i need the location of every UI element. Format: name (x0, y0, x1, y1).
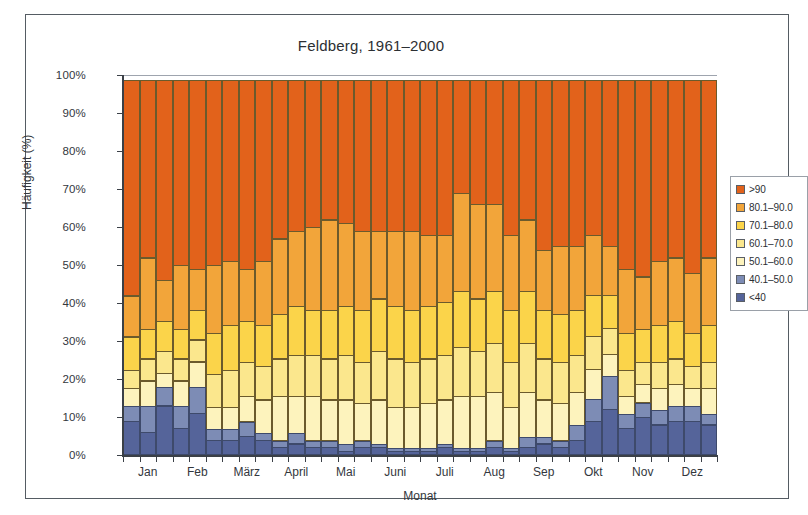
bar-segment (321, 359, 338, 401)
legend-swatch-icon (736, 185, 745, 194)
x-tick-mark (354, 456, 355, 462)
bar-segment (156, 373, 173, 388)
bar-segment (569, 310, 586, 356)
bar-Jan-3[interactable] (156, 75, 173, 455)
bar-Dez-3[interactable] (701, 75, 718, 455)
legend-item[interactable]: >90 (736, 184, 803, 195)
x-tick-mark (420, 456, 421, 462)
legend-swatch-icon (736, 293, 745, 302)
bar-segment (404, 407, 421, 449)
bar-segment (387, 231, 404, 307)
bar-Jan-1[interactable] (123, 75, 140, 455)
bar-April-3[interactable] (305, 75, 322, 455)
bar-segment (140, 381, 157, 408)
bar-segment (602, 376, 619, 410)
x-tick-mark (288, 456, 289, 462)
bar-segment (420, 403, 437, 449)
bar-segment (239, 396, 256, 423)
x-axis-label: Monat (123, 489, 717, 503)
bar-Feb-1[interactable] (173, 75, 190, 455)
bar-segment (486, 291, 503, 344)
bar-segment (420, 235, 437, 307)
x-tick-label-mai: Mai (336, 465, 355, 479)
bar-segment (437, 400, 454, 446)
bar-Feb-2[interactable] (189, 75, 206, 455)
bar-Juni-1[interactable] (371, 75, 388, 455)
bar-segment (602, 246, 619, 295)
bar-Juli-1[interactable] (420, 75, 437, 455)
bar-segment (519, 220, 536, 292)
bar-segment (651, 410, 668, 425)
bar-segment (569, 246, 586, 311)
bar-Mai-1[interactable] (321, 75, 338, 455)
bar-segment (354, 231, 371, 311)
bar-Nov-3[interactable] (651, 75, 668, 455)
bar-Aug-3[interactable] (503, 75, 520, 455)
bar-Mai-2[interactable] (338, 75, 355, 455)
bar-segment (552, 246, 569, 314)
legend-item[interactable]: <40 (736, 292, 803, 303)
bar-Juli-3[interactable] (453, 75, 470, 455)
bar-März-3[interactable] (255, 75, 272, 455)
bar-segment (387, 407, 404, 449)
bar-Nov-1[interactable] (618, 75, 635, 455)
page-title: Feldberg, 1961–2000 (26, 37, 716, 54)
bar-segment (701, 425, 718, 455)
bar-segment (222, 80, 239, 262)
x-tick-mark (123, 456, 124, 462)
bar-segment (651, 362, 668, 389)
x-tick-mark (486, 456, 487, 462)
bar-Okt-2[interactable] (585, 75, 602, 455)
bar-Dez-2[interactable] (684, 75, 701, 455)
bar-segment (123, 421, 140, 455)
bar-segment (305, 447, 322, 455)
bar-Dez-1[interactable] (668, 75, 685, 455)
bar-Sep-3[interactable] (552, 75, 569, 455)
bar-Aug-1[interactable] (470, 75, 487, 455)
bar-segment (701, 80, 718, 259)
bar-segment (239, 269, 256, 322)
bar-segment (536, 310, 553, 359)
bar-Sep-2[interactable] (536, 75, 553, 455)
bar-segment (420, 306, 437, 359)
bar-segment (156, 351, 173, 374)
bar-April-1[interactable] (272, 75, 289, 455)
legend-item[interactable]: 40.1–50.0 (736, 274, 803, 285)
bar-segment (668, 421, 685, 455)
x-tick-mark (635, 456, 636, 462)
bar-segment (123, 337, 140, 371)
x-tick-mark (371, 456, 372, 462)
bar-segment (503, 362, 520, 408)
bar-segment (668, 258, 685, 323)
bar-Juni-2[interactable] (387, 75, 404, 455)
bar-Aug-2[interactable] (486, 75, 503, 455)
legend-item[interactable]: 50.1–60.0 (736, 256, 803, 267)
legend-item[interactable]: 70.1–80.0 (736, 220, 803, 231)
bar-Jan-2[interactable] (140, 75, 157, 455)
bar-Sep-1[interactable] (519, 75, 536, 455)
legend-item[interactable]: 60.1–70.0 (736, 238, 803, 249)
bar-segment (123, 296, 140, 338)
bar-segment (206, 265, 223, 333)
x-tick-mark (321, 456, 322, 462)
x-tick-mark (206, 456, 207, 462)
bar-segment (635, 80, 652, 278)
bar-März-1[interactable] (222, 75, 239, 455)
bar-Feb-3[interactable] (206, 75, 223, 455)
bar-März-2[interactable] (239, 75, 256, 455)
y-tick-label: 0% (26, 449, 86, 461)
x-tick-mark (338, 456, 339, 462)
y-axis-line (122, 75, 124, 456)
bar-Okt-3[interactable] (602, 75, 619, 455)
bar-Nov-2[interactable] (635, 75, 652, 455)
bar-segment (206, 333, 223, 375)
bar-Okt-1[interactable] (569, 75, 586, 455)
bar-segment (140, 329, 157, 359)
bar-Mai-3[interactable] (354, 75, 371, 455)
bar-Juni-3[interactable] (404, 75, 421, 455)
bar-segment (321, 80, 338, 221)
bar-Juli-2[interactable] (437, 75, 454, 455)
bar-segment (338, 223, 355, 307)
bar-April-2[interactable] (288, 75, 305, 455)
legend-item[interactable]: 80.1–90.0 (736, 202, 803, 213)
